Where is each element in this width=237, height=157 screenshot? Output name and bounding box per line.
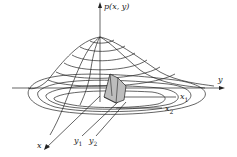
x1-label: x1 xyxy=(180,93,188,103)
p-axis-arrow-icon xyxy=(98,2,102,8)
y-axis-label: y xyxy=(218,76,223,84)
p-axis-label: p(x, y) xyxy=(104,3,129,11)
y2-label: y2 xyxy=(89,137,97,147)
y-axis-arrow-icon xyxy=(219,86,225,90)
y1-label: y1 xyxy=(74,137,82,147)
density-surface-diagram xyxy=(0,0,237,157)
x2-label: x2 xyxy=(165,105,173,115)
x1-label-sub: 1 xyxy=(185,96,189,103)
x-axis-label: x xyxy=(37,142,42,150)
y1-label-sub: 1 xyxy=(79,140,83,147)
x2-label-sub: 2 xyxy=(170,108,174,115)
y2-label-sub: 2 xyxy=(94,140,98,147)
